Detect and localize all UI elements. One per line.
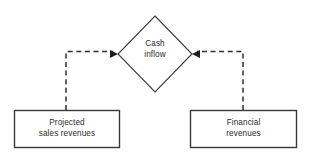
left-connector-line: [66, 52, 113, 111]
left-process-box-shape[interactable]: [15, 111, 120, 148]
diagram-canvas: Cash inflow Projected sales revenues Fin…: [0, 0, 312, 163]
flowchart-graphic: [0, 0, 312, 163]
right-connector-arrowhead-icon: [192, 50, 200, 58]
left-connector-arrowhead-icon: [110, 50, 118, 58]
right-connector-line: [197, 52, 243, 111]
right-process-box-shape[interactable]: [191, 111, 297, 148]
decision-diamond-shape[interactable]: [118, 16, 192, 92]
